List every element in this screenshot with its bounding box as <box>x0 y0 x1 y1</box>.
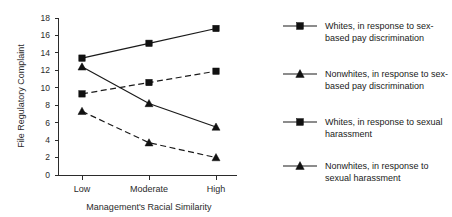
triangle-marker-icon <box>145 139 153 146</box>
y-tick-label-12: 12 <box>41 65 51 75</box>
series-3 <box>78 107 220 160</box>
square-marker-icon <box>146 40 152 46</box>
line-chart: 18 16 14 12 10 8 6 4 2 0 Low Moderate Hi… <box>0 0 452 217</box>
square-marker-icon <box>213 25 219 31</box>
triangle-marker-icon <box>145 99 153 106</box>
y-tick-label-10: 10 <box>41 83 51 93</box>
y-axis: 18 16 14 12 10 8 6 4 2 0 <box>41 13 59 180</box>
square-marker-icon <box>79 91 85 97</box>
legend-item-2[interactable]: Whites, in response to sexual harassment <box>283 117 443 139</box>
y-axis-title: File Regulatory Complaint <box>16 44 26 148</box>
series-line-2 <box>82 67 216 127</box>
x-axis-title: Management's Racial Similarity <box>86 202 212 212</box>
series-1 <box>79 68 219 97</box>
legend-item-1[interactable]: Nonwhites, in response to sex- based pay… <box>283 69 448 91</box>
legend-label-1-line1: Nonwhites, in response to sex- <box>325 69 448 79</box>
series-layer <box>78 25 220 160</box>
square-marker-icon <box>297 119 304 126</box>
series-0 <box>79 25 219 61</box>
x-axis: Low Moderate High <box>59 176 238 195</box>
legend-label-3-line2: sexual harassment <box>325 173 401 183</box>
square-marker-icon <box>79 55 85 61</box>
legend-label-2-line2: harassment <box>325 129 373 139</box>
x-tick-label-low: Low <box>74 184 91 194</box>
y-tick-label-18: 18 <box>41 13 51 23</box>
legend-label-1-line2: based pay discrimination <box>325 81 424 91</box>
triangle-marker-icon <box>78 107 86 114</box>
legend-label-2-line1: Whites, in response to sexual <box>325 117 443 127</box>
square-marker-icon <box>146 79 152 85</box>
y-tick-label-8: 8 <box>45 100 50 110</box>
legend: Whites, in response to sex- based pay di… <box>283 21 448 183</box>
triangle-marker-icon <box>212 154 220 161</box>
legend-label-0-line1: Whites, in response to sex- <box>325 21 434 31</box>
y-tick-label-4: 4 <box>45 135 50 145</box>
y-tick-label-2: 2 <box>45 152 50 162</box>
y-tick-label-0: 0 <box>45 170 50 180</box>
legend-item-3[interactable]: Nonwhites, in response to sexual harassm… <box>283 161 429 183</box>
square-marker-icon <box>297 23 304 30</box>
chart-figure: 18 16 14 12 10 8 6 4 2 0 Low Moderate Hi… <box>0 0 452 217</box>
x-tick-label-moderate: Moderate <box>130 184 168 194</box>
series-line-3 <box>82 111 216 157</box>
y-tick-label-6: 6 <box>45 118 50 128</box>
y-tick-label-16: 16 <box>41 30 51 40</box>
triangle-marker-icon <box>78 63 86 70</box>
square-marker-icon <box>213 68 219 74</box>
legend-label-0-line2: based pay discrimination <box>325 33 424 43</box>
series-2 <box>78 63 220 130</box>
legend-label-3-line1: Nonwhites, in response to <box>325 161 429 171</box>
legend-item-0[interactable]: Whites, in response to sex- based pay di… <box>283 21 434 43</box>
y-tick-label-14: 14 <box>41 48 51 58</box>
x-tick-label-high: High <box>207 184 226 194</box>
